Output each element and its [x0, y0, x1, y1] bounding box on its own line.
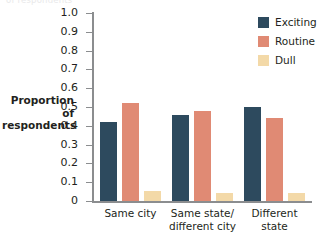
y-axis-tick	[86, 88, 92, 89]
bar-routine-group-2	[194, 111, 211, 201]
y-axis-tick	[86, 107, 92, 108]
y-axis-tick-label: 0.9	[44, 26, 78, 37]
legend: Exciting Routine Dull	[258, 16, 317, 73]
legend-item-routine[interactable]: Routine	[258, 35, 317, 48]
y-axis-tick	[86, 182, 92, 183]
x-axis-label-group-3: Differentstate	[230, 207, 320, 232]
y-axis-tick-label: 0.2	[44, 157, 78, 168]
clipped-caption-text: of respondents	[6, 0, 72, 5]
y-axis-tick	[86, 126, 92, 127]
y-axis-tick-label: 1.0	[44, 7, 78, 18]
legend-item-exciting[interactable]: Exciting	[258, 16, 317, 29]
y-axis-tick	[86, 32, 92, 33]
legend-swatch-icon-exciting	[258, 17, 269, 28]
y-axis-tick-label: 0.7	[44, 63, 78, 74]
legend-label-routine: Routine	[275, 36, 315, 47]
bar-routine-group-1	[122, 103, 139, 201]
bar-exciting-group-3	[244, 107, 261, 201]
bar-exciting-group-1	[100, 122, 117, 201]
y-axis-tick-label: 0	[44, 195, 78, 206]
y-axis-tick-label: 0.5	[44, 101, 78, 112]
x-axis-label-line: Different	[230, 207, 320, 220]
legend-item-dull[interactable]: Dull	[258, 54, 317, 67]
y-axis-tick-label: 0.6	[44, 82, 78, 93]
bar-dull-group-2	[216, 193, 233, 201]
y-axis-tick	[86, 163, 92, 164]
y-axis-tick	[86, 69, 92, 70]
y-axis-tick	[86, 201, 92, 202]
bar-routine-group-3	[266, 118, 283, 201]
y-axis-tick-label: 0.4	[44, 120, 78, 131]
legend-swatch-icon-dull	[258, 55, 269, 66]
y-axis-tick-label: 0.1	[44, 176, 78, 187]
y-axis-tick	[86, 51, 92, 52]
bar-chart: of respondents Proportion of respondents…	[0, 0, 324, 236]
bar-dull-group-3	[288, 193, 305, 201]
y-axis-tick	[86, 145, 92, 146]
y-axis-tick	[86, 13, 92, 14]
y-axis-tick-label: 0.3	[44, 139, 78, 150]
bar-dull-group-1	[144, 191, 161, 201]
bar-exciting-group-2	[172, 115, 189, 201]
legend-label-exciting: Exciting	[275, 17, 317, 28]
legend-label-dull: Dull	[275, 55, 296, 66]
y-axis-tick-label: 0.8	[44, 45, 78, 56]
x-axis-line	[92, 201, 312, 203]
legend-swatch-icon-routine	[258, 36, 269, 47]
x-axis-label-line: state	[230, 220, 320, 233]
clipped-caption-bleed: of respondents	[0, 0, 324, 7]
